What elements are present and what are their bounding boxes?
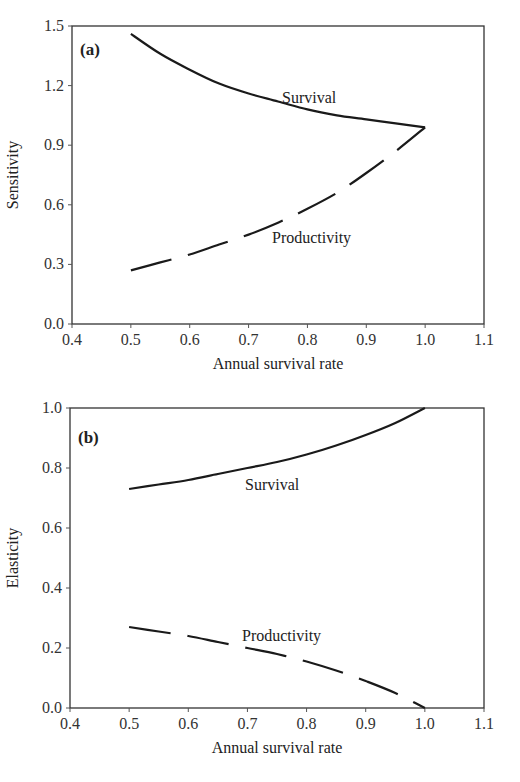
x-tick-label: 0.6 bbox=[178, 715, 198, 732]
panel-b-y-axis-title: Elasticity bbox=[4, 528, 22, 588]
panel-a-survival-curve bbox=[131, 34, 425, 127]
figure: 0.40.50.60.70.80.91.01.10.00.30.60.91.21… bbox=[0, 0, 520, 782]
y-tick-label: 0.8 bbox=[42, 459, 62, 476]
y-tick-label: 0.9 bbox=[44, 136, 64, 153]
panel-a-survival-label: Survival bbox=[282, 89, 337, 106]
y-tick-label: 0.0 bbox=[44, 315, 64, 332]
x-tick-label: 0.9 bbox=[356, 331, 376, 348]
panel-b-elasticity-chart: 0.40.50.60.70.80.91.01.10.00.20.40.60.81… bbox=[4, 399, 494, 756]
x-tick-label: 0.8 bbox=[297, 715, 317, 732]
x-tick-label: 0.5 bbox=[119, 715, 139, 732]
x-tick-label: 1.1 bbox=[474, 715, 494, 732]
y-tick-label: 1.2 bbox=[44, 77, 64, 94]
panel-b-curves bbox=[129, 408, 425, 708]
panel-a-sensitivity-chart: 0.40.50.60.70.80.91.01.10.00.30.60.91.21… bbox=[4, 17, 494, 372]
y-tick-label: 0.2 bbox=[42, 639, 62, 656]
x-tick-label: 0.4 bbox=[62, 331, 82, 348]
y-tick-label: 1.5 bbox=[44, 17, 64, 34]
panel-a-plot-frame bbox=[72, 26, 484, 324]
panel-a-label: (a) bbox=[80, 40, 100, 59]
panel-b-x-axis-title: Annual survival rate bbox=[212, 739, 343, 756]
y-tick-label: 0.0 bbox=[42, 699, 62, 716]
x-tick-label: 1.0 bbox=[415, 715, 435, 732]
y-tick-label: 0.4 bbox=[42, 579, 62, 596]
panel-b-productivity-label: Productivity bbox=[242, 627, 321, 645]
x-tick-label: 0.8 bbox=[297, 331, 317, 348]
panel-b-label: (b) bbox=[78, 428, 99, 447]
x-tick-label: 0.5 bbox=[121, 331, 141, 348]
panel-a-productivity-curve bbox=[131, 127, 425, 270]
y-tick-label: 1.0 bbox=[42, 399, 62, 416]
panel-a-productivity-label: Productivity bbox=[272, 229, 351, 247]
panel-b-survival-label: Survival bbox=[245, 476, 300, 493]
panel-a-y-axis-title: Sensitivity bbox=[4, 141, 22, 209]
y-tick-label: 0.3 bbox=[44, 255, 64, 272]
panel-a-x-axis-title: Annual survival rate bbox=[213, 355, 344, 372]
x-tick-label: 0.9 bbox=[356, 715, 376, 732]
y-tick-label: 0.6 bbox=[42, 519, 62, 536]
x-tick-label: 0.7 bbox=[237, 715, 257, 732]
panel-b-ticks: 0.40.50.60.70.80.91.01.10.00.20.40.60.81… bbox=[42, 399, 494, 732]
x-tick-label: 1.1 bbox=[474, 331, 494, 348]
panel-a-ticks: 0.40.50.60.70.80.91.01.10.00.30.60.91.21… bbox=[44, 17, 494, 348]
x-tick-label: 0.6 bbox=[180, 331, 200, 348]
x-tick-label: 1.0 bbox=[415, 331, 435, 348]
x-tick-label: 0.4 bbox=[60, 715, 80, 732]
x-tick-label: 0.7 bbox=[239, 331, 259, 348]
panel-b-plot-frame bbox=[70, 408, 484, 708]
y-tick-label: 0.6 bbox=[44, 196, 64, 213]
